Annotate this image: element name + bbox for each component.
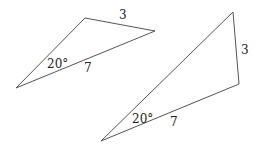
- triangle-2-side-label-7: 7: [170, 115, 178, 129]
- triangle-2-angle-label: 20°: [132, 112, 153, 126]
- triangle-1: 3 7 20°: [16, 8, 155, 88]
- triangle-1-angle-label: 20°: [47, 57, 68, 71]
- triangle-2-side-label-3: 3: [241, 43, 249, 57]
- triangle-1-side-label-7: 7: [84, 61, 92, 75]
- triangle-1-outline: [16, 18, 155, 88]
- triangle-2: 3 7 20°: [101, 12, 249, 141]
- diagram-canvas: 3 7 20° 3 7 20°: [0, 0, 260, 149]
- triangle-1-side-label-3: 3: [119, 8, 127, 22]
